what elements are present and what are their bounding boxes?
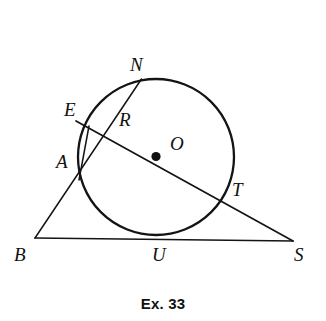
point-label-o: O: [170, 134, 184, 153]
point-label-s: S: [294, 245, 304, 264]
geometry-figure: N E R A O T B U S Ex. 33: [0, 0, 326, 321]
secant-line-ban: [35, 79, 142, 238]
point-label-e: E: [64, 100, 76, 119]
figure-caption: Ex. 33: [0, 295, 326, 312]
point-label-b: B: [14, 245, 26, 264]
point-label-a: A: [56, 152, 68, 171]
center-point-dot: [151, 152, 160, 161]
tangent-line-bus: [35, 238, 293, 241]
figure-canvas: [0, 0, 326, 321]
point-label-r: R: [119, 110, 131, 129]
point-label-u: U: [152, 245, 166, 264]
point-label-t: T: [232, 180, 243, 199]
point-label-n: N: [130, 55, 143, 74]
secant-line-eots: [76, 121, 293, 241]
